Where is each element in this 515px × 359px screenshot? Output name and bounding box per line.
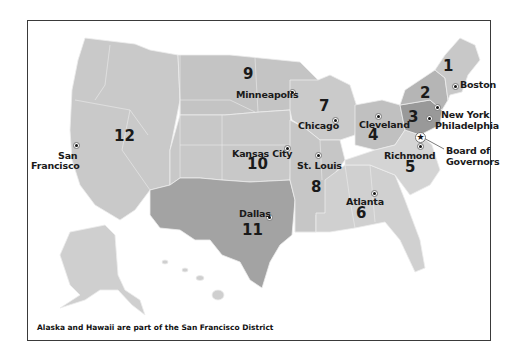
city-label-richmond: Richmond <box>384 151 435 161</box>
hawaii-island <box>182 268 188 272</box>
city-label-atlanta: Atlanta <box>346 197 384 207</box>
district-number-8: 8 <box>311 180 321 195</box>
district-number-11: 11 <box>242 223 263 238</box>
hawaii-island <box>162 260 168 264</box>
city-marker-new-york[interactable] <box>434 104 441 111</box>
district-number-2: 2 <box>420 86 430 101</box>
city-label-st-louis: St. Louis <box>297 161 342 171</box>
district-number-6: 6 <box>356 206 366 221</box>
city-marker-richmond[interactable] <box>417 143 424 150</box>
city-label-kansas-city: Kansas City <box>232 149 292 159</box>
city-label-minneapolis: Minneapolis <box>236 90 298 100</box>
district-number-1: 1 <box>443 59 453 74</box>
map-caption: Alaska and Hawaii are part of the San Fr… <box>37 323 273 332</box>
city-label-boston: Boston <box>460 80 496 90</box>
city-label-new-york: New York <box>441 110 489 120</box>
city-label-dallas: Dallas <box>239 209 271 219</box>
district-11-region <box>150 178 295 288</box>
city-label-cleveland: Cleveland <box>359 120 410 130</box>
board-of-governors-line1: Board of <box>446 146 490 156</box>
city-marker-boston[interactable] <box>452 83 459 90</box>
hawaii-island <box>212 290 224 300</box>
district-number-12: 12 <box>114 129 135 144</box>
city-label-san-francisco-line2: Francisco <box>31 161 80 171</box>
board-of-governors-line2: Governors <box>446 157 499 167</box>
district-number-9: 9 <box>243 67 253 82</box>
district-number-4: 4 <box>368 128 378 143</box>
district-number-7: 7 <box>319 99 329 114</box>
city-label-philadelphia: Philadelphia <box>435 121 499 131</box>
city-marker-philadelphia[interactable] <box>426 115 433 122</box>
city-marker-st-louis[interactable] <box>315 152 322 159</box>
district-number-10: 10 <box>247 157 268 172</box>
alaska-region <box>60 225 145 315</box>
district-number-5: 5 <box>405 160 415 175</box>
hawaii-island <box>196 276 204 281</box>
city-label-chicago: Chicago <box>298 121 339 131</box>
city-marker-san-francisco[interactable] <box>73 142 80 149</box>
us-map <box>0 0 515 359</box>
star-icon[interactable]: ★ <box>415 132 426 143</box>
